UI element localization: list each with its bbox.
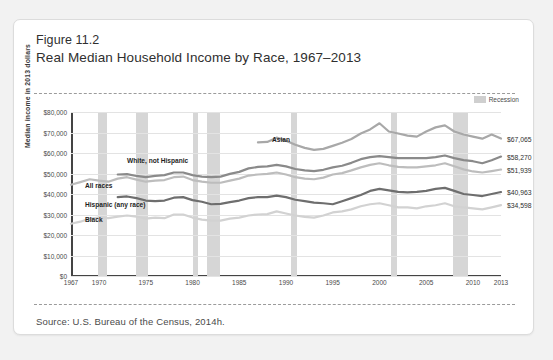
end-value-all-races: $51,939 xyxy=(507,166,532,173)
legend-label-recession: Recession xyxy=(489,96,519,103)
x-axis-tick-label: 2005 xyxy=(419,279,433,286)
end-value-asian: $67,065 xyxy=(507,135,532,142)
x-axis-tick-label: 1995 xyxy=(326,279,340,286)
end-value-hispanic-any-race: $40,963 xyxy=(507,189,532,196)
series-line-asian xyxy=(258,123,501,150)
legend-recession: Recession xyxy=(474,96,519,103)
y-axis-tick-label: $10,000 xyxy=(44,252,68,259)
gridline xyxy=(71,276,501,277)
figure-header: Figure 11.2 Real Median Household Income… xyxy=(36,32,476,67)
x-axis-tick-label: 2013 xyxy=(494,279,508,286)
recession-swatch-icon xyxy=(474,96,486,103)
divider-top xyxy=(34,93,515,94)
x-axis-tick-label: 1975 xyxy=(139,279,153,286)
plot-area: $0$10,000$20,000$30,000$40,000$50,000$60… xyxy=(71,112,501,276)
y-axis-tick-label: $70,000 xyxy=(44,129,68,136)
y-axis-tick-label: $60,000 xyxy=(44,150,68,157)
y-axis-tick-label: $80,000 xyxy=(44,109,68,116)
y-axis-tick-label: $20,000 xyxy=(44,232,68,239)
series-label-black: Black xyxy=(85,216,103,223)
divider-bottom xyxy=(34,304,515,305)
x-axis-tick-label: 2000 xyxy=(372,279,386,286)
y-axis-tick-label: $50,000 xyxy=(44,170,68,177)
series-line-hispanic-any-race xyxy=(118,188,501,204)
figure-page: Figure 11.2 Real Median Household Income… xyxy=(0,0,553,360)
y-axis-tick-label: $40,000 xyxy=(44,191,68,198)
end-value-black: $34,598 xyxy=(507,202,532,209)
x-axis-tick-label: 1980 xyxy=(185,279,199,286)
x-axis-tick-label: 2010 xyxy=(466,279,480,286)
y-axis-tick-label: $30,000 xyxy=(44,211,68,218)
x-axis-tick-label: 1967 xyxy=(64,279,78,286)
y-axis-title: Median income in 2013 dollars xyxy=(24,44,31,148)
chart-container: Recession Median income in 2013 dollars … xyxy=(14,96,535,301)
series-label-white-not-hispanic: White, not Hispanic xyxy=(127,157,188,164)
x-axis-tick-label: 1985 xyxy=(232,279,246,286)
series-label-all-races: All races xyxy=(85,182,113,189)
figure-source: Source: U.S. Bureau of the Census, 2014h… xyxy=(36,316,225,327)
series-label-hispanic-any-race: Hispanic (any race) xyxy=(85,201,145,208)
x-axis-tick-label: 1990 xyxy=(279,279,293,286)
end-value-white-not-hispanic: $58,270 xyxy=(507,153,532,160)
figure-number: Figure 11.2 xyxy=(36,32,476,49)
figure-title: Real Median Household Income by Race, 19… xyxy=(36,49,476,67)
figure-card: Figure 11.2 Real Median Household Income… xyxy=(13,19,534,335)
x-axis-tick-label: 1970 xyxy=(92,279,106,286)
series-label-asian: Asian xyxy=(272,136,290,143)
